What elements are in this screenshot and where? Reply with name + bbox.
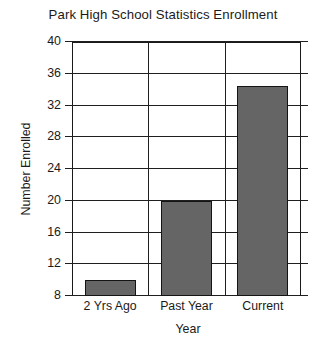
bar-chart: Park High School Statistics Enrollment N… (0, 0, 326, 349)
y-tick-label: 28 (21, 129, 61, 143)
category-separator (148, 42, 149, 296)
bar (85, 280, 136, 296)
y-tick-label: 32 (21, 98, 61, 112)
gridline (65, 73, 308, 74)
bar (161, 201, 212, 296)
gridline (65, 41, 308, 42)
y-tick-label: 24 (21, 161, 61, 175)
y-tick-label: 36 (21, 66, 61, 80)
x-tick-label: 2 Yrs Ago (72, 299, 148, 313)
bar (237, 86, 288, 296)
x-axis-label: Year (72, 322, 304, 336)
y-tick-label: 20 (21, 193, 61, 207)
category-separator (225, 42, 226, 296)
y-tick-label: 40 (21, 34, 61, 48)
x-tick-label: Current (225, 299, 301, 313)
y-tick-label: 16 (21, 225, 61, 239)
chart-title: Park High School Statistics Enrollment (0, 7, 326, 22)
y-tick-label: 8 (21, 288, 61, 302)
y-tick-label: 12 (21, 256, 61, 270)
x-tick-label: Past Year (148, 299, 224, 313)
